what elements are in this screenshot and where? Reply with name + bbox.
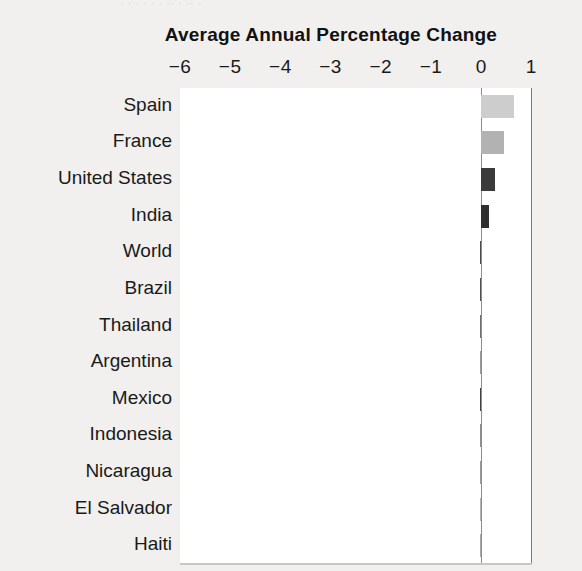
axis-zero-line — [481, 88, 482, 564]
plot-baseline — [180, 563, 532, 565]
x-tick-label: 1 — [511, 56, 551, 78]
y-axis-label: Thailand — [8, 314, 180, 336]
x-axis-tick-labels: −6−5−4−3−2−101 — [0, 56, 582, 82]
y-axis-label: France — [8, 130, 180, 152]
x-tick-label: −5 — [210, 56, 250, 78]
x-tick-label: 0 — [461, 56, 501, 78]
plot-area — [180, 88, 480, 565]
chart-title: Average Annual Percentage Change — [0, 24, 582, 46]
y-axis-label: India — [8, 204, 180, 226]
y-axis-label: World — [8, 240, 180, 262]
gridline — [531, 88, 532, 564]
x-tick-label: −1 — [411, 56, 451, 78]
y-axis-label: El Salvador — [8, 497, 180, 519]
bar — [481, 205, 489, 228]
y-axis-label: Mexico — [8, 387, 180, 409]
y-axis-label: United States — [8, 167, 180, 189]
bar — [481, 95, 514, 118]
x-tick-label: −6 — [160, 56, 200, 78]
y-axis-category-labels: SpainFranceUnited StatesIndiaWorldBrazil… — [0, 88, 180, 564]
y-axis-label: Nicaragua — [8, 460, 180, 482]
y-axis-label: Haiti — [8, 533, 180, 555]
bar — [481, 168, 495, 191]
x-tick-label: −4 — [260, 56, 300, 78]
y-axis-label: Brazil — [8, 277, 180, 299]
y-axis-label: Indonesia — [8, 423, 180, 445]
y-axis-label: Spain — [8, 94, 180, 116]
clipped-header-text: · · · · · · ·· · ·· · — [0, 0, 582, 10]
chart-page: · · · · · · ·· · ·· · Average Annual Per… — [0, 0, 582, 571]
x-tick-label: −3 — [311, 56, 351, 78]
bar — [481, 131, 504, 154]
y-axis-label: Argentina — [8, 350, 180, 372]
x-tick-label: −2 — [361, 56, 401, 78]
